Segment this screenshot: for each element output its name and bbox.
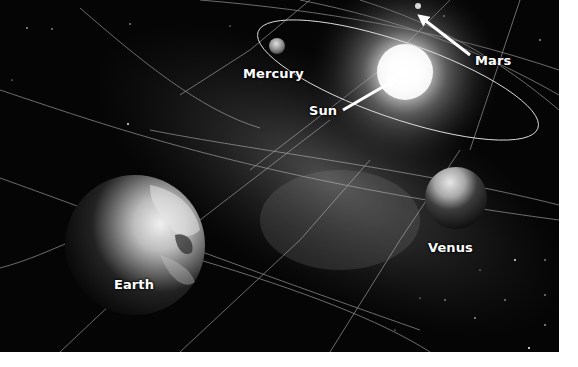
earth-planet (65, 175, 205, 315)
venus-planet (425, 167, 487, 229)
solar-system-illustration: Mercury Sun Mars Venus Earth (0, 0, 559, 352)
sun-core (377, 44, 433, 100)
earth-label: Earth (114, 277, 154, 292)
mars-planet (415, 3, 421, 9)
venus-label: Venus (428, 240, 473, 255)
mars-label: Mars (475, 53, 511, 68)
mercury-label: Mercury (243, 66, 304, 81)
sun-label: Sun (309, 103, 337, 118)
mercury-planet (269, 38, 285, 54)
